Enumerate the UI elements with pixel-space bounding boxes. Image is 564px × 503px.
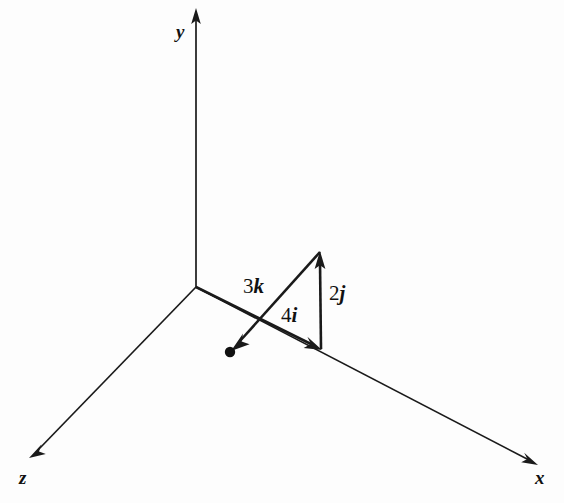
vector-2j-coefficient: 2 <box>329 281 340 305</box>
x-axis-arrowhead <box>521 453 538 465</box>
vector-4i-basis-symbol: i <box>292 303 298 327</box>
figure-canvas: y x z 3k 4i 2j <box>0 0 564 503</box>
vector-label-4i: 4i <box>281 305 297 326</box>
vector-3k <box>231 252 320 351</box>
y-axis-label: y <box>176 22 184 41</box>
vector-4i-coefficient: 4 <box>281 303 292 327</box>
z-axis-arrowhead <box>29 444 46 458</box>
vector-3k-basis-symbol: k <box>254 274 265 298</box>
axis-group-z <box>29 287 196 458</box>
x-axis-label: x <box>535 468 545 487</box>
vector-2j <box>315 251 326 349</box>
vector-diagram-svg <box>0 0 564 503</box>
vector-3k-arrowhead <box>231 333 250 351</box>
vector-3k-coefficient: 3 <box>243 274 254 298</box>
vector-label-3k: 3k <box>243 276 264 297</box>
vector-2j-shaft <box>320 261 321 349</box>
vector-2j-basis-symbol: j <box>340 281 346 305</box>
axis-group-y <box>191 8 201 287</box>
terminal-point-dot <box>225 347 235 357</box>
z-axis-line <box>38 287 196 450</box>
vector-label-2j: 2j <box>329 283 345 304</box>
z-axis-label: z <box>19 468 26 487</box>
